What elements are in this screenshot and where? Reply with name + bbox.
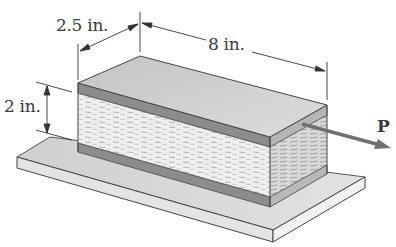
force-label-p: P <box>377 118 390 135</box>
dimension-width-label: 2.5 in. <box>56 17 108 34</box>
figure-canvas: 2.5 in. 8 in. 2 in. P <box>0 0 396 247</box>
block-diagram <box>0 0 396 247</box>
dimension-length-label: 8 in. <box>208 36 245 53</box>
dimension-height <box>36 82 72 140</box>
dimension-height-label: 2 in. <box>4 98 41 115</box>
